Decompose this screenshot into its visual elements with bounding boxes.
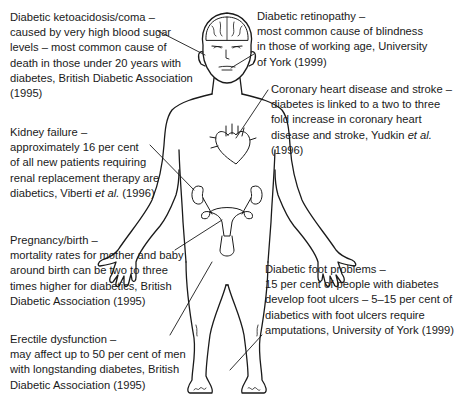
callout-title: Diabetic ketoacidosis/coma –	[10, 10, 193, 25]
citation-italic: et al.	[95, 187, 119, 199]
callout-text: caused by very high blood sugar	[10, 25, 193, 40]
callout-title: Pregnancy/birth –	[10, 233, 183, 248]
heart-icon	[210, 124, 256, 164]
uterus-icon	[201, 208, 252, 257]
callout-text: (1995)	[10, 86, 193, 101]
callout-text: levels – most common cause of	[10, 40, 193, 55]
callout-text: Diabetic Association (1995)	[10, 294, 183, 309]
callout-pregnancy: Pregnancy/birth – mortality rates for mo…	[10, 233, 183, 309]
callout-title: Diabetic retinopathy –	[257, 9, 427, 24]
callout-title: Kidney failure –	[10, 125, 159, 140]
callout-title: Diabetic foot problems –	[265, 262, 454, 277]
callout-ketoacidosis: Diabetic ketoacidosis/coma – caused by v…	[10, 10, 193, 101]
callout-text-part: disease and stroke, Yudkin	[271, 129, 408, 141]
callout-title: Erectile dysfunction –	[10, 332, 186, 347]
callout-title: Coronary heart disease and stroke –	[271, 82, 452, 97]
kidney-icon	[192, 186, 262, 214]
callout-foot: Diabetic foot problems – 15 per cent of …	[265, 262, 454, 338]
callout-text: may affect up to 50 per cent of men	[10, 347, 186, 362]
callout-text: fold increase in coronary heart	[271, 112, 452, 127]
callout-text-part: (1996)	[119, 187, 154, 199]
callout-text: (1996)	[271, 143, 452, 158]
callout-text: Diabetic Association (1995)	[10, 378, 186, 393]
citation-italic: et al.	[408, 129, 432, 141]
callout-text: mortality rates for mother and baby	[10, 248, 183, 263]
callout-text: diabetes is linked to a two to three	[271, 97, 452, 112]
callout-kidney: Kidney failure – approximately 16 per ce…	[10, 125, 159, 201]
callout-text: approximately 16 per cent	[10, 140, 159, 155]
callout-text: in those of working age, University	[257, 39, 427, 54]
callout-erectile: Erectile dysfunction – may affect up to …	[10, 332, 186, 393]
callout-retinopathy: Diabetic retinopathy – most common cause…	[257, 9, 427, 70]
callout-text: diabetics with foot ulcers require	[265, 308, 454, 323]
callout-text: times higher for diabetics, British	[10, 279, 183, 294]
head-icon	[199, 13, 256, 94]
callout-text: of all new patients requiring	[10, 155, 159, 170]
callout-text: develop foot ulcers – 5–15 per cent of	[265, 292, 454, 307]
callout-text: disease and stroke, Yudkin et al.	[271, 128, 452, 143]
callout-text: around birth can be two to three	[10, 263, 183, 278]
callout-text: diabetes, British Diabetic Association	[10, 71, 193, 86]
callout-text: most common cause of blindness	[257, 24, 427, 39]
callout-text: renal replacement therapy are	[10, 171, 159, 186]
callout-text-part: diabetics, Viberti	[10, 187, 95, 199]
callout-text: amputations, University of York (1999)	[265, 323, 454, 338]
callout-text: 15 per cent of people with diabetes	[265, 277, 454, 292]
callout-heart: Coronary heart disease and stroke – diab…	[271, 82, 452, 158]
callout-text: diabetics, Viberti et al. (1996)	[10, 186, 159, 201]
callout-text: death in those under 20 years with	[10, 56, 193, 71]
callout-text: of York (1999)	[257, 55, 427, 70]
callout-text: with longstanding diabetes, British	[10, 362, 186, 377]
